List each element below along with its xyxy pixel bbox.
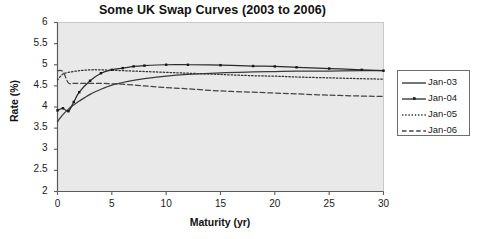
series-marker-jan-04 (187, 64, 189, 66)
series-marker-jan-04 (132, 65, 134, 67)
series-marker-jan-04 (56, 109, 58, 111)
series-marker-jan-04 (143, 64, 145, 66)
y-tick-label: 5.5 (22, 37, 48, 48)
series-marker-jan-04 (100, 72, 102, 74)
series-marker-jan-04 (252, 65, 254, 67)
x-tick-label: 20 (262, 198, 288, 209)
series-marker-jan-04 (382, 69, 384, 71)
legend-item-jan-06: Jan-06 (401, 121, 469, 137)
x-tick-label: 10 (153, 198, 179, 209)
series-marker-jan-04 (274, 65, 276, 67)
y-tick-label: 4 (22, 100, 48, 111)
legend-swatch-solid-icon (401, 75, 427, 87)
series-marker-jan-04 (361, 69, 363, 71)
legend-label-jan-03: Jan-03 (428, 76, 457, 87)
y-tick-label: 2.5 (22, 163, 48, 174)
y-tick-label: 2 (22, 185, 48, 196)
series-marker-jan-04 (165, 64, 167, 66)
plot-background (58, 23, 384, 192)
legend-swatch-dotted-icon (401, 107, 427, 119)
series-marker-jan-04 (62, 107, 64, 109)
x-tick-label: 25 (316, 198, 342, 209)
x-tick-label: 30 (371, 198, 397, 209)
series-marker-jan-04 (73, 101, 75, 103)
series-marker-jan-04 (122, 67, 124, 69)
legend-swatch-solid-marker-icon (401, 91, 427, 103)
series-marker-jan-04 (328, 67, 330, 69)
y-tick-label: 4.5 (22, 79, 48, 90)
series-marker-jan-04 (89, 80, 91, 82)
swap-curves-chart: Some UK Swap Curves (2003 to 2006) Rate … (0, 0, 480, 239)
series-marker-jan-04 (219, 64, 221, 66)
legend-label-jan-04: Jan-04 (428, 92, 457, 103)
series-marker-jan-04 (295, 66, 297, 68)
legend-label-jan-06: Jan-06 (428, 124, 457, 135)
legend-swatch-dashed-icon (401, 123, 427, 135)
series-marker-jan-04 (78, 91, 80, 93)
series-marker-jan-04 (67, 110, 69, 112)
x-tick-label: 0 (45, 198, 71, 209)
y-tick-label: 3.5 (22, 121, 48, 132)
legend-item-jan-05: Jan-05 (401, 105, 469, 121)
x-tick-label: 5 (99, 198, 125, 209)
y-tick-label: 6 (22, 16, 48, 27)
legend-item-jan-03: Jan-03 (401, 73, 469, 89)
legend-label-jan-05: Jan-05 (428, 108, 457, 119)
chart-legend: Jan-03 Jan-04 Jan-05 Jan-06 (397, 70, 470, 136)
legend-item-jan-04: Jan-04 (401, 89, 469, 105)
x-tick-label: 15 (208, 198, 234, 209)
y-tick-label: 5 (22, 58, 48, 69)
y-tick-label: 3 (22, 142, 48, 153)
